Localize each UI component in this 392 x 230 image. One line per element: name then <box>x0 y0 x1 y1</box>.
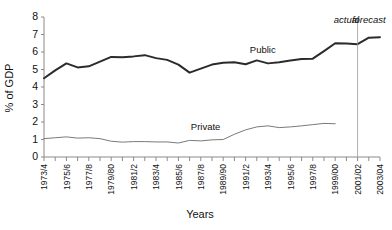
x-axis-tick-label: 1991/2 <box>241 164 251 190</box>
y-axis-tick-label: 8 <box>32 10 38 22</box>
x-axis-title: Years <box>186 208 214 220</box>
y-axis-tick-label: 6 <box>32 45 38 57</box>
x-axis-tick-label: 1995/6 <box>286 164 296 190</box>
x-axis-tick-label: 1979/80 <box>106 164 116 195</box>
y-axis-tick-label: 2 <box>32 115 38 127</box>
x-axis-tick-label: 1975/6 <box>62 164 72 190</box>
series-line-private <box>44 123 335 143</box>
series-label-private: Private <box>191 121 221 132</box>
y-axis-tick-label: 1 <box>32 133 38 145</box>
x-axis-tick-label: 1993/4 <box>263 164 273 190</box>
x-axis-tick-label: 1989/90 <box>218 164 228 195</box>
x-axis-tick-label: 1987/8 <box>196 164 206 190</box>
series-label-public: Public <box>250 44 276 55</box>
x-axis: 1973/41975/61977/81979/801981/21983/4198… <box>39 157 385 195</box>
x-axis-tick-label: 1997/8 <box>308 164 318 190</box>
chart-annotations: actualforecastPublicPrivate <box>191 14 386 157</box>
y-axis-title: % of GDP <box>3 64 15 113</box>
x-axis-tick-label: 1985/6 <box>174 164 184 190</box>
x-axis-tick-label: 2003/04 <box>375 164 385 195</box>
y-axis: 012345678 <box>32 10 44 162</box>
x-axis-tick-label: 1973/4 <box>39 164 49 190</box>
x-axis-tick-label: 1983/4 <box>151 164 161 190</box>
chart-canvas: 012345678 1973/41975/61977/81979/801981/… <box>0 0 392 230</box>
x-axis-tick-label: 1977/8 <box>84 164 94 190</box>
series-line-public <box>44 37 380 78</box>
y-axis-tick-label: 4 <box>32 80 38 92</box>
x-axis-tick-label: 1981/2 <box>129 164 139 190</box>
annotation-forecast: forecast <box>352 14 386 25</box>
y-axis-tick-label: 3 <box>32 98 38 110</box>
y-axis-tick-label: 0 <box>32 150 38 162</box>
x-axis-tick-label: 1999/00 <box>330 164 340 195</box>
x-axis-tick-label: 2001/02 <box>353 164 363 195</box>
y-axis-tick-label: 5 <box>32 63 38 75</box>
line-chart: 012345678 1973/41975/61977/81979/801981/… <box>0 0 392 230</box>
y-axis-tick-label: 7 <box>32 28 38 40</box>
